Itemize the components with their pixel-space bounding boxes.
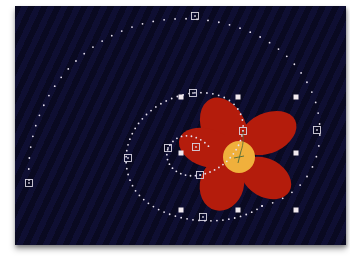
- path-dot: [185, 174, 187, 176]
- path-dot: [251, 211, 253, 213]
- path-dot: [200, 139, 202, 141]
- path-dot: [218, 167, 220, 169]
- path-dot: [233, 103, 235, 105]
- path-dot: [218, 94, 220, 96]
- path-dot: [139, 194, 141, 196]
- path-dot: [127, 174, 129, 176]
- path-dot: [138, 123, 140, 125]
- path-dot: [278, 48, 280, 50]
- path-dot: [208, 145, 210, 147]
- resize-handle[interactable]: [236, 95, 241, 100]
- path-dot: [286, 55, 288, 57]
- path-dot: [143, 199, 145, 201]
- path-dot: [204, 173, 206, 175]
- path-dot: [32, 135, 34, 137]
- path-dot: [234, 217, 236, 219]
- path-dot: [218, 21, 220, 23]
- resize-handle[interactable]: [294, 95, 299, 100]
- path-dot: [195, 137, 197, 139]
- path-dot: [174, 215, 176, 217]
- path-dot: [180, 217, 182, 219]
- path-dot: [232, 153, 234, 155]
- path-dot: [300, 72, 302, 74]
- path-dot: [141, 118, 143, 120]
- path-dot: [169, 213, 171, 215]
- path-dot: [163, 211, 165, 213]
- resize-handle[interactable]: [179, 95, 184, 100]
- path-dot: [158, 209, 160, 211]
- path-dot: [190, 175, 192, 177]
- path-dot: [75, 60, 77, 62]
- keyframe-marker[interactable]: [314, 127, 321, 134]
- resize-handle[interactable]: [179, 151, 184, 156]
- path-dot: [166, 154, 168, 156]
- path-dot: [155, 106, 157, 108]
- path-dot: [209, 171, 211, 173]
- scene-canvas[interactable]: [15, 6, 346, 245]
- animation-stage[interactable]: [15, 6, 346, 245]
- path-dot: [241, 135, 243, 137]
- keyframe-marker[interactable]: [125, 155, 132, 162]
- path-dot: [191, 135, 193, 137]
- path-dot: [28, 157, 30, 159]
- path-dot: [181, 136, 183, 138]
- keyframe-marker[interactable]: [200, 214, 207, 221]
- path-dot: [152, 20, 154, 22]
- path-dot: [239, 27, 241, 29]
- path-dot: [237, 108, 239, 110]
- path-dot: [240, 113, 242, 115]
- path-dot: [167, 159, 169, 161]
- path-dot: [306, 81, 308, 83]
- path-dot: [229, 157, 231, 159]
- path-dot: [200, 92, 202, 94]
- path-dot: [121, 30, 123, 32]
- path-dot: [30, 146, 32, 148]
- resize-handle[interactable]: [294, 208, 299, 213]
- path-dot: [238, 144, 240, 146]
- path-dot: [39, 114, 41, 116]
- path-dot: [240, 216, 242, 218]
- path-dot: [131, 26, 133, 28]
- path-dot: [222, 219, 224, 221]
- path-dot: [67, 68, 69, 70]
- path-dot: [315, 156, 317, 158]
- path-dot: [269, 42, 271, 44]
- path-dot: [223, 97, 225, 99]
- path-dot: [131, 133, 133, 135]
- path-dot: [60, 76, 62, 78]
- path-dot: [172, 167, 174, 169]
- path-dot: [229, 24, 231, 26]
- path-dot: [176, 96, 178, 98]
- path-dot: [92, 46, 94, 48]
- path-dot: [228, 218, 230, 220]
- path-dot: [212, 93, 214, 95]
- path-dot: [242, 119, 244, 121]
- path-dot: [311, 91, 313, 93]
- path-dot: [210, 220, 212, 222]
- path-dot: [293, 63, 295, 65]
- path-dot: [126, 168, 128, 170]
- path-dot: [111, 35, 113, 37]
- path-dot: [319, 134, 321, 136]
- path-dot: [291, 191, 293, 193]
- path-dot: [186, 135, 188, 137]
- path-dot: [242, 125, 244, 127]
- path-dot: [229, 100, 231, 102]
- resize-handle[interactable]: [179, 208, 184, 213]
- path-dot: [272, 202, 274, 204]
- path-dot: [174, 18, 176, 20]
- path-dot: [194, 92, 196, 94]
- resize-handle[interactable]: [294, 151, 299, 156]
- path-dot: [319, 123, 321, 125]
- path-dot: [54, 85, 56, 87]
- path-dot: [150, 110, 152, 112]
- path-dot: [83, 53, 85, 55]
- path-dot: [317, 112, 319, 114]
- path-dot: [245, 214, 247, 216]
- resize-handle[interactable]: [236, 208, 241, 213]
- path-dot: [48, 95, 50, 97]
- path-dot: [43, 104, 45, 106]
- path-dot: [153, 206, 155, 208]
- path-dot: [318, 145, 320, 147]
- path-dot: [167, 149, 169, 151]
